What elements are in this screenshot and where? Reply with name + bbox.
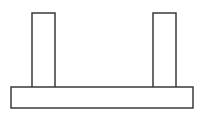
figure-canvas [0, 0, 204, 114]
canvas-background [0, 0, 204, 114]
line-drawing-svg [0, 0, 204, 114]
